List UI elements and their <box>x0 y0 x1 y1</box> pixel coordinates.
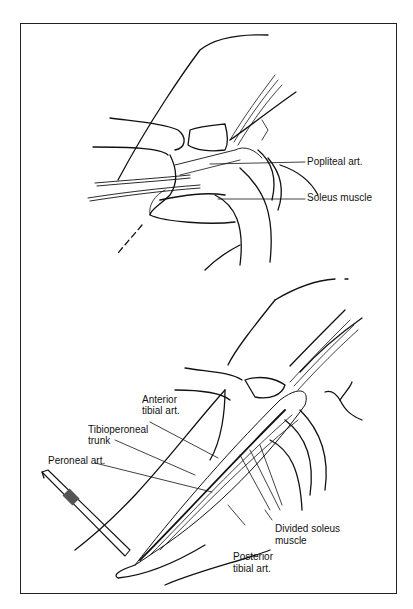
label-posterior-tibial-artery-line1: Posterior <box>233 551 273 562</box>
surgical-illustration <box>0 0 413 609</box>
label-anterior-tibial-artery-line1: Anterior <box>142 394 177 405</box>
label-popliteal-artery: Popliteal art. <box>307 156 363 167</box>
label-soleus-muscle: Soleus muscle <box>307 192 372 203</box>
label-tibioperoneal-trunk-line2: trunk <box>88 435 110 446</box>
label-tibioperoneal-trunk-line1: Tibioperoneal <box>88 424 148 435</box>
label-peroneal-artery: Peroneal art. <box>48 455 105 466</box>
top-panel-drawing <box>88 35 318 270</box>
label-anterior-tibial-artery-line2: tibial art. <box>142 405 180 416</box>
label-divided-soleus-line1: Divided soleus <box>275 523 340 534</box>
label-divided-soleus-line2: muscle <box>275 535 307 546</box>
label-posterior-tibial-artery-line2: tibial art. <box>233 563 271 574</box>
